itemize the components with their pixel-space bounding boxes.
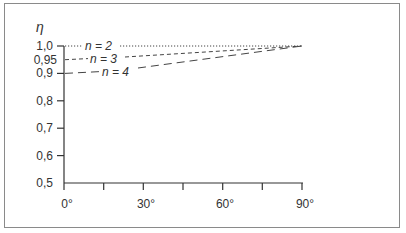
x-ticks [64, 183, 302, 190]
series-n2-label: n = 2 [85, 39, 112, 53]
series-n3-line [125, 46, 302, 57]
x-tick-label: 90° [296, 197, 314, 211]
x-tick-label: 60° [216, 197, 234, 211]
y-tick-label: 0,8 [36, 94, 53, 108]
y-tick-label: 0,6 [36, 149, 53, 163]
x-tick-label: 30° [137, 197, 155, 211]
series-n4-label: n = 4 [102, 65, 129, 79]
efficiency-chart: η 1,0 0,95 0,9 0,8 0,7 0,6 0,5 0° 30° 60… [0, 0, 406, 233]
y-tick-label: 0,9 [36, 66, 53, 80]
x-tick-label: 0° [61, 197, 73, 211]
y-tick-label: 0,95 [34, 53, 58, 67]
y-tick-label: 1,0 [36, 39, 53, 53]
y-tick-label: 0,7 [36, 121, 53, 135]
series-n3-line [65, 59, 88, 60]
y-ticks [57, 46, 64, 156]
series-n4-line [138, 46, 302, 68]
series-n4-line [65, 72, 100, 74]
y-axis-label: η [36, 19, 44, 35]
series-n3-label: n = 3 [90, 52, 117, 66]
y-tick-label: 0,5 [36, 176, 53, 190]
